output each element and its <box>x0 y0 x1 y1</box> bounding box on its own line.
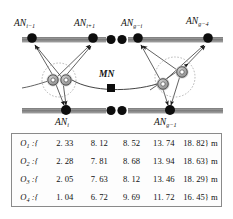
ring-node-right-2 <box>175 65 188 78</box>
o-index: 1 <box>27 142 30 149</box>
cell-number: 18. 63 <box>183 156 204 166</box>
label-base: AN <box>55 117 67 127</box>
label-sub: i−1 <box>26 22 35 29</box>
label-sub: g−1 <box>166 121 176 128</box>
anchor-dot-bottom-1 <box>61 105 71 115</box>
label-an-g-minus-1: ANg−1 <box>154 117 177 127</box>
label-sub: i <box>67 121 69 128</box>
row-label: O1 :{ <box>12 134 46 152</box>
label-sub: i+1 <box>86 22 95 29</box>
cell-value: 2. 28 <box>46 152 83 170</box>
unit: m <box>211 156 218 166</box>
cell-value: 9. 69 <box>115 188 147 206</box>
cell-value: 13. 46 <box>148 170 180 188</box>
o-index: 4 <box>27 196 30 203</box>
table-row: O1 :{ 2. 33 8. 12 8. 52 13. 74 18. 82} m <box>12 134 221 152</box>
ring-node-left-1 <box>47 74 60 87</box>
mn-text: MN <box>99 69 114 79</box>
close-brace: } <box>205 192 209 202</box>
cell-value-last: 18. 82} m <box>180 134 221 152</box>
cell-value-last: 18. 63} m <box>180 152 221 170</box>
label-base: AN <box>14 18 26 28</box>
figure-root: ANi−1 ANi+1 ANg−i ANg−4 MN ANi ANg−1 O1 … <box>0 0 233 219</box>
anchor-dot-top-2 <box>88 33 98 43</box>
unit: m <box>211 138 218 148</box>
cell-value: 8. 12 <box>115 170 147 188</box>
anchor-dot-bottom-2 <box>165 105 175 115</box>
label-mn: MN <box>99 69 114 79</box>
open-brace: { <box>35 192 38 202</box>
cell-value: 13. 74 <box>148 134 180 152</box>
label-base: AN <box>74 18 86 28</box>
cell-value: 1. 04 <box>46 188 83 206</box>
anchor-dot-top-1 <box>27 33 37 43</box>
cell-value-last: 18. 29} m <box>180 170 221 188</box>
open-brace: { <box>35 156 38 166</box>
ring-node-left-2 <box>60 74 73 87</box>
o-name: O <box>20 174 26 184</box>
close-brace: } <box>205 174 209 184</box>
cell-value: 6. 72 <box>83 188 115 206</box>
network-diagram: ANi−1 ANi+1 ANg−i ANg−4 MN ANi ANg−1 <box>0 0 233 130</box>
o-index: 2 <box>27 160 30 167</box>
table-row: O4 :{ 1. 04 6. 72 9. 69 11. 72 16. 45} m <box>12 188 221 206</box>
cell-value: 8. 12 <box>83 134 115 152</box>
cell-value: 2. 33 <box>46 134 83 152</box>
ring-node-right-1 <box>156 77 169 90</box>
anchor-dot-top-4 <box>203 33 213 43</box>
label-an-i: ANi <box>55 117 69 127</box>
cell-value: 7. 63 <box>83 170 115 188</box>
o-index: 3 <box>27 178 30 185</box>
o-name: O <box>20 192 26 202</box>
unit: m <box>211 192 218 202</box>
label-an-i-minus-1: ANi−1 <box>14 18 35 28</box>
observation-table: O1 :{ 2. 33 8. 12 8. 52 13. 74 18. 82} m… <box>12 134 221 206</box>
cell-value: 13. 94 <box>148 152 180 170</box>
row-label: O4 :{ <box>12 188 46 206</box>
label-base: AN <box>154 117 166 127</box>
label-base: AN <box>121 18 133 28</box>
anchor-dot-top-3 <box>133 33 143 43</box>
cell-number: 18. 29 <box>183 174 204 184</box>
table-row: O2 :{ 2. 28 7. 81 8. 68 13. 94 18. 63} m <box>12 152 221 170</box>
cell-value: 11. 72 <box>148 188 180 206</box>
row-label: O2 :{ <box>12 152 46 170</box>
unit: m <box>211 174 218 184</box>
open-brace: { <box>35 138 38 148</box>
label-base: AN <box>186 16 198 26</box>
close-brace: } <box>205 156 209 166</box>
table-row: O3 :{ 2. 05 7. 63 8. 12 13. 46 18. 29} m <box>12 170 221 188</box>
cell-value: 7. 81 <box>83 152 115 170</box>
label-an-g-minus-4: ANg−4 <box>186 16 209 26</box>
label-sub: g−i <box>133 22 142 29</box>
mn-node <box>107 84 115 92</box>
close-brace: } <box>205 138 209 148</box>
bottom-rail-right <box>128 108 223 114</box>
cell-value-last: 16. 45} m <box>180 188 221 206</box>
cell-number: 16. 45 <box>183 192 204 202</box>
row-label: O3 :{ <box>12 170 46 188</box>
o-name: O <box>20 156 26 166</box>
observation-table-wrapper: O1 :{ 2. 33 8. 12 8. 52 13. 74 18. 82} m… <box>11 133 222 207</box>
label-an-g-minus-i: ANg−i <box>121 18 142 28</box>
cell-value: 2. 05 <box>46 170 83 188</box>
o-name: O <box>20 138 26 148</box>
label-an-i-plus-1: ANi+1 <box>74 18 95 28</box>
cell-number: 18. 82 <box>183 138 204 148</box>
cell-value: 8. 52 <box>115 134 147 152</box>
cell-value: 8. 68 <box>115 152 147 170</box>
label-sub: g−4 <box>198 20 208 27</box>
open-brace: { <box>35 174 38 184</box>
